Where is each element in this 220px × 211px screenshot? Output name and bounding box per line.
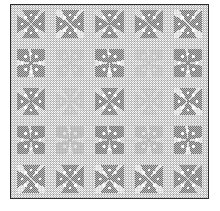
highlight-dots bbox=[135, 88, 163, 116]
x-star-block-icon bbox=[17, 88, 45, 116]
highlight-dots bbox=[174, 165, 202, 193]
quilt-cell-r4-c1 bbox=[11, 121, 50, 160]
quilt-cell-r1-c1 bbox=[11, 5, 50, 44]
plus-star-block-icon bbox=[135, 49, 163, 77]
plus-star-block-icon bbox=[17, 126, 45, 154]
highlight-dots bbox=[17, 165, 45, 193]
quilt-cell-r1-c2 bbox=[50, 5, 89, 44]
quilt-cell-r5-c3 bbox=[90, 159, 129, 198]
x-star-block-icon bbox=[174, 10, 202, 38]
x-star-block-icon bbox=[56, 88, 84, 116]
quilt-cell-r2-c5 bbox=[169, 44, 208, 83]
x-star-block-icon bbox=[56, 165, 84, 193]
x-star-block-icon bbox=[135, 10, 163, 38]
quilt-cell-r4-c4 bbox=[129, 121, 168, 160]
quilt-cell-r2-c1 bbox=[11, 44, 50, 83]
quilt-cell-r1-c3 bbox=[90, 5, 129, 44]
highlight-dots bbox=[174, 49, 202, 77]
x-star-block-icon bbox=[17, 10, 45, 38]
highlight-dots bbox=[174, 88, 202, 116]
x-star-block-icon bbox=[95, 165, 123, 193]
plus-star-block-icon bbox=[174, 126, 202, 154]
highlight-dots bbox=[17, 10, 45, 38]
highlight-dots bbox=[95, 126, 123, 154]
x-star-block-icon bbox=[135, 165, 163, 193]
plus-star-block-icon bbox=[95, 49, 123, 77]
highlight-dots bbox=[17, 126, 45, 154]
highlight-dots bbox=[56, 165, 84, 193]
plus-star-block-icon bbox=[135, 126, 163, 154]
highlight-dots bbox=[56, 10, 84, 38]
pattern-frame bbox=[10, 4, 209, 199]
highlight-dots bbox=[56, 49, 84, 77]
quilt-cell-r1-c4 bbox=[129, 5, 168, 44]
highlight-dots bbox=[17, 49, 45, 77]
plus-star-block-icon bbox=[174, 49, 202, 77]
quilt-cell-r3-c3 bbox=[90, 82, 129, 121]
plus-star-block-icon bbox=[56, 126, 84, 154]
quilt-cell-r5-c4 bbox=[129, 159, 168, 198]
highlight-dots bbox=[135, 10, 163, 38]
x-star-block-icon bbox=[174, 165, 202, 193]
highlight-dots bbox=[95, 10, 123, 38]
quilt-cell-r3-c1 bbox=[11, 82, 50, 121]
plus-star-block-icon bbox=[17, 49, 45, 77]
highlight-dots bbox=[95, 88, 123, 116]
quilt-cell-r3-c2 bbox=[50, 82, 89, 121]
x-star-block-icon bbox=[135, 88, 163, 116]
highlight-dots bbox=[174, 126, 202, 154]
quilt-cell-r3-c4 bbox=[129, 82, 168, 121]
quilt-block-grid bbox=[11, 5, 208, 198]
x-star-block-icon bbox=[95, 10, 123, 38]
quilt-cell-r3-c5 bbox=[169, 82, 208, 121]
quilt-cell-r2-c2 bbox=[50, 44, 89, 83]
plus-star-block-icon bbox=[56, 49, 84, 77]
quilt-cell-r5-c5 bbox=[169, 159, 208, 198]
quilt-cell-r4-c3 bbox=[90, 121, 129, 160]
image-canvas bbox=[0, 0, 220, 211]
quilt-cell-r2-c3 bbox=[90, 44, 129, 83]
quilt-cell-r5-c1 bbox=[11, 159, 50, 198]
highlight-dots bbox=[95, 165, 123, 193]
quilt-cell-r2-c4 bbox=[129, 44, 168, 83]
quilt-cell-r4-c2 bbox=[50, 121, 89, 160]
quilt-cell-r1-c5 bbox=[169, 5, 208, 44]
highlight-dots bbox=[135, 165, 163, 193]
quilt-cell-r4-c5 bbox=[169, 121, 208, 160]
plus-star-block-icon bbox=[95, 126, 123, 154]
x-star-block-icon bbox=[56, 10, 84, 38]
x-star-block-icon bbox=[174, 88, 202, 116]
highlight-dots bbox=[56, 126, 84, 154]
highlight-dots bbox=[95, 49, 123, 77]
highlight-dots bbox=[17, 88, 45, 116]
highlight-dots bbox=[135, 49, 163, 77]
x-star-block-icon bbox=[95, 88, 123, 116]
x-star-block-icon bbox=[17, 165, 45, 193]
quilt-cell-r5-c2 bbox=[50, 159, 89, 198]
highlight-dots bbox=[174, 10, 202, 38]
highlight-dots bbox=[56, 88, 84, 116]
highlight-dots bbox=[135, 126, 163, 154]
